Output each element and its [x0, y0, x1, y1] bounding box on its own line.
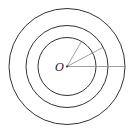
center-label: O — [55, 61, 64, 74]
concentric-circles-diagram: O — [0, 0, 133, 137]
center-point — [66, 66, 68, 68]
